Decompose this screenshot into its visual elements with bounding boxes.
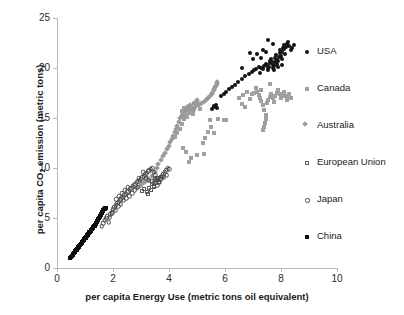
data-point-japan bbox=[167, 167, 172, 172]
plot-area bbox=[57, 18, 337, 268]
data-point-canada bbox=[184, 150, 188, 154]
data-point-usa bbox=[266, 38, 270, 42]
data-point-canada bbox=[254, 86, 258, 90]
data-point-canada bbox=[206, 130, 210, 134]
x-tick-label: 6 bbox=[222, 274, 228, 284]
data-point-canada bbox=[261, 128, 265, 132]
y-axis-title: per capita CO2 emission (metric tons) bbox=[34, 24, 47, 274]
y-axis-title-post: emission (metric tons) bbox=[34, 65, 45, 169]
x-tick-label: 10 bbox=[331, 274, 342, 284]
legend-label: Japan bbox=[317, 193, 343, 204]
data-point-japan bbox=[100, 224, 105, 229]
data-point-canada bbox=[187, 160, 191, 164]
data-point-canada bbox=[243, 105, 247, 109]
data-point-canada bbox=[262, 108, 266, 112]
x-tick bbox=[281, 268, 282, 272]
y-axis-title-pre: per capita CO bbox=[34, 173, 45, 235]
data-point-usa bbox=[259, 56, 263, 60]
data-point-canada bbox=[201, 141, 205, 145]
legend-item-australia[interactable]: Australia bbox=[305, 119, 404, 156]
legend-label: European Union bbox=[317, 156, 386, 167]
data-point-usa bbox=[240, 66, 244, 70]
data-point-usa bbox=[258, 71, 262, 75]
legend-label: China bbox=[317, 230, 342, 241]
data-point-canada bbox=[181, 146, 185, 150]
x-tick bbox=[113, 268, 114, 272]
data-point-japan bbox=[137, 176, 142, 181]
data-point-japan bbox=[107, 215, 112, 220]
x-tick bbox=[337, 268, 338, 272]
data-point-china bbox=[104, 206, 108, 210]
chart-legend: USACanadaAustraliaEuropean UnionJapanChi… bbox=[305, 45, 404, 267]
data-point-usa bbox=[292, 43, 296, 47]
data-point-canada bbox=[212, 131, 216, 135]
y-tick bbox=[53, 268, 57, 269]
data-point-usa bbox=[283, 52, 287, 56]
data-point-usa bbox=[212, 104, 216, 108]
data-point-canada bbox=[202, 152, 206, 156]
data-point-usa bbox=[248, 51, 252, 55]
data-point-japan bbox=[141, 170, 146, 175]
y-tick-label: 25 bbox=[28, 13, 50, 23]
y-axis-title-subscript: 2 bbox=[39, 169, 46, 173]
x-axis-title: per capita Energy Use (metric tons oil e… bbox=[57, 291, 337, 302]
data-point-canada bbox=[195, 153, 199, 157]
data-point-usa bbox=[261, 48, 265, 52]
data-point-european-union bbox=[140, 189, 144, 193]
legend-item-china[interactable]: China bbox=[305, 230, 404, 267]
x-tick bbox=[169, 268, 170, 272]
data-point-canada bbox=[268, 82, 272, 86]
data-point-usa bbox=[215, 106, 219, 110]
data-point-japan bbox=[155, 183, 160, 188]
data-point-canada bbox=[289, 96, 293, 100]
data-point-canada bbox=[248, 97, 252, 101]
data-point-canada bbox=[272, 100, 276, 104]
legend-marker-filled-square-icon bbox=[305, 235, 309, 239]
legend-marker-open-circle-icon bbox=[305, 198, 310, 203]
x-tick bbox=[57, 268, 58, 272]
data-point-usa bbox=[272, 68, 276, 72]
data-point-usa bbox=[264, 50, 268, 54]
legend-item-japan[interactable]: Japan bbox=[305, 193, 404, 230]
data-point-canada bbox=[198, 107, 202, 111]
legend-marker-filled-circle-icon bbox=[305, 50, 309, 54]
data-point-usa bbox=[271, 42, 275, 46]
data-point-canada bbox=[224, 118, 228, 122]
data-point-usa bbox=[251, 57, 255, 61]
legend-label: Canada bbox=[317, 82, 350, 93]
scatter-chart: 0246810 0510152025 per capita Energy Use… bbox=[0, 0, 404, 315]
x-tick-label: 0 bbox=[54, 274, 60, 284]
data-point-canada bbox=[209, 125, 213, 129]
legend-label: USA bbox=[317, 45, 337, 56]
data-point-usa bbox=[255, 52, 259, 56]
x-axis-line bbox=[57, 268, 337, 269]
x-tick bbox=[225, 268, 226, 272]
data-point-usa bbox=[233, 83, 237, 87]
legend-item-european-union[interactable]: European Union bbox=[305, 156, 404, 193]
legend-marker-filled-square-icon bbox=[305, 87, 309, 91]
data-point-usa bbox=[276, 65, 280, 69]
data-point-japan bbox=[107, 220, 112, 225]
legend-label: Australia bbox=[317, 119, 354, 130]
data-point-canada bbox=[208, 118, 212, 122]
data-point-canada bbox=[203, 136, 207, 140]
legend-item-canada[interactable]: Canada bbox=[305, 82, 404, 119]
data-point-japan bbox=[165, 173, 170, 178]
data-point-japan bbox=[125, 185, 130, 190]
x-tick-label: 8 bbox=[278, 274, 284, 284]
data-point-usa bbox=[280, 57, 284, 61]
legend-item-usa[interactable]: USA bbox=[305, 45, 404, 82]
x-tick-label: 4 bbox=[166, 274, 172, 284]
data-point-usa bbox=[280, 63, 284, 67]
legend-marker-open-square-icon bbox=[305, 161, 309, 165]
x-tick-label: 2 bbox=[110, 274, 116, 284]
data-point-canada bbox=[216, 117, 220, 121]
data-point-canada bbox=[259, 88, 263, 92]
